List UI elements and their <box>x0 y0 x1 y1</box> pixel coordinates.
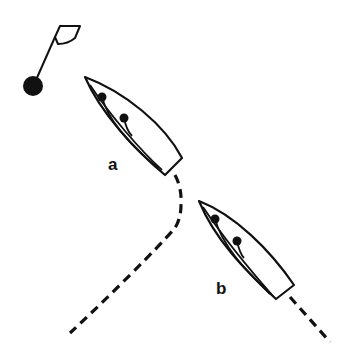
boat-a: a <box>85 77 182 175</box>
boat-label-a: a <box>108 155 118 174</box>
track-b <box>290 297 330 342</box>
mark-buoy <box>23 26 80 96</box>
track-a <box>70 175 181 333</box>
boat-label-b: b <box>216 279 226 298</box>
flag-icon <box>55 26 80 44</box>
diagram-canvas: a b <box>0 0 352 361</box>
hull-icon <box>85 77 182 175</box>
buoy-icon <box>23 76 43 96</box>
boat-b: b <box>199 201 294 299</box>
